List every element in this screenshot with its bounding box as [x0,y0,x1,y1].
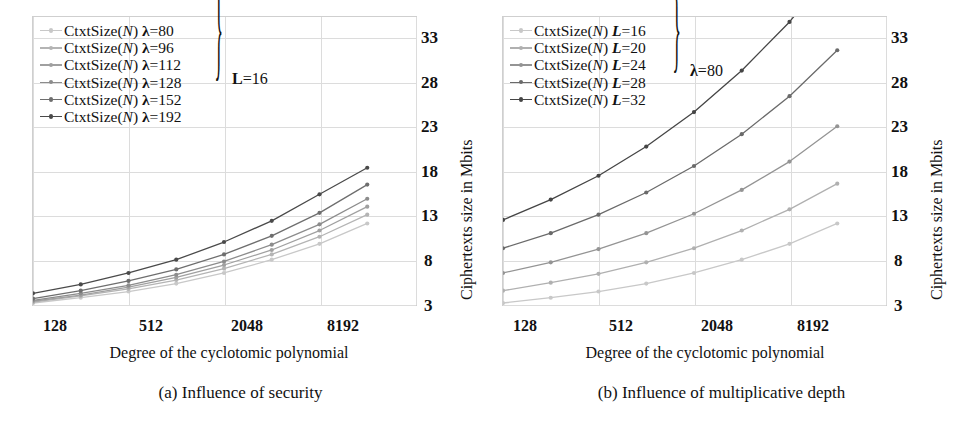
legend-item[interactable]: CtxtSize(N) L=20 [510,39,646,56]
series-line [503,184,837,291]
legend-item[interactable]: CtxtSize(N) λ=112 [40,56,182,73]
ytick-label: 13 [421,207,438,224]
xaxis-title-a: Degree of the cyclotomic polynomial [0,344,458,362]
series-line [33,223,367,303]
series-marker [835,48,839,52]
series-marker [222,240,226,244]
series-marker [503,246,505,250]
subfigure-b: 33 28 23 18 13 8 3 Ciphertexts size in M… [481,0,962,440]
series-marker [549,260,553,264]
series-marker [317,211,321,215]
series-line [33,185,367,299]
series-marker [270,252,274,256]
series-marker [222,259,226,263]
series-marker [79,289,83,293]
legend-a: CtxtSize(N) λ=80CtxtSize(N) λ=96CtxtSize… [40,22,182,125]
series-marker [317,228,321,232]
legend-marker-icon [510,78,532,87]
series-marker [503,289,505,293]
series-marker [365,205,369,209]
xtick-label: 2048 [701,318,733,334]
legend-item-label: CtxtSize(N) L=32 [534,91,646,108]
legend-marker-icon [510,60,532,69]
series-marker [740,258,744,262]
xaxis-title-b: Degree of the cyclotomic polynomial [481,344,929,362]
grid-line-h [33,305,416,306]
series-marker [222,271,226,275]
ytick-label: 18 [421,163,438,180]
series-marker [174,258,178,262]
grid-line-v [886,17,887,305]
ytick-label: 8 [424,252,433,269]
series-marker [222,252,226,256]
legend-item[interactable]: CtxtSize(N) L=28 [510,74,646,91]
ytick-label: 8 [894,252,903,269]
xtick-label: 8192 [797,318,829,334]
series-marker [692,164,696,168]
legend-item[interactable]: CtxtSize(N) L=32 [510,91,646,108]
xtick-label: 8192 [327,318,359,334]
series-marker [692,212,696,216]
series-marker [365,166,369,170]
xtick-label: 128 [43,318,67,334]
series-marker [596,174,600,178]
ytick-label: 13 [891,207,908,224]
ytick-label: 33 [421,29,438,46]
series-marker [126,271,130,275]
series-marker [79,282,83,286]
series-marker [365,182,369,186]
legend-marker-icon [40,26,62,35]
series-marker [270,234,274,238]
xtick-label: 512 [139,318,163,334]
series-marker [365,221,369,225]
series-marker [740,188,744,192]
xtick-label: 128 [513,318,537,334]
legend-item[interactable]: CtxtSize(N) λ=80 [40,22,182,39]
caption-a: (a) Influence of security [0,383,481,403]
legend-brace-label-b: λ=80 [690,62,723,80]
series-marker [835,124,839,128]
series-marker [644,260,648,264]
legend-item-label: CtxtSize(N) L=20 [534,39,646,56]
ytick-label: 3 [894,297,903,314]
series-marker [787,242,791,246]
legend-item-label: CtxtSize(N) L=24 [534,56,646,73]
series-marker [33,291,35,295]
series-marker [644,281,648,285]
series-marker [644,144,648,148]
legend-item-label: CtxtSize(N) λ=128 [64,74,182,91]
legend-item-label: CtxtSize(N) λ=112 [64,56,181,73]
legend-item[interactable]: CtxtSize(N) L=24 [510,56,646,73]
series-marker [596,213,600,217]
legend-item[interactable]: CtxtSize(N) λ=192 [40,108,182,125]
ytick-label: 3 [424,297,433,314]
series-marker [549,296,553,300]
legend-marker-icon [40,78,62,87]
ytick-label: 33 [891,29,908,46]
yaxis-title-b: Ciphertexts size in Mbits [928,140,946,300]
series-line [503,126,837,273]
legend-brace-b: } [673,22,681,38]
series-marker [596,289,600,293]
legend-marker-icon [40,95,62,104]
series-marker [270,258,274,262]
legend-item[interactable]: CtxtSize(N) λ=128 [40,74,182,91]
legend-item-label: CtxtSize(N) λ=80 [64,22,174,39]
series-marker [740,132,744,136]
series-marker [317,242,321,246]
series-line [33,207,367,302]
series-marker [270,219,274,223]
subfigure-a: 33 28 23 18 13 8 3 Ciphertexts size in M… [0,0,481,440]
legend-item-label: CtxtSize(N) λ=96 [64,39,174,56]
grid-line-h [503,305,886,306]
legend-item[interactable]: CtxtSize(N) λ=152 [40,91,182,108]
legend-item[interactable]: CtxtSize(N) L=16 [510,22,646,39]
yaxis-title-a: Ciphertexts size in Mbits [458,140,476,300]
legend-brace-a: } [215,22,223,38]
legend-item[interactable]: CtxtSize(N) λ=96 [40,39,182,56]
series-marker [174,267,178,271]
figure-row: 33 28 23 18 13 8 3 Ciphertexts size in M… [0,0,962,440]
series-marker [126,279,130,283]
ytick-label: 28 [891,74,908,91]
series-line [503,223,837,303]
